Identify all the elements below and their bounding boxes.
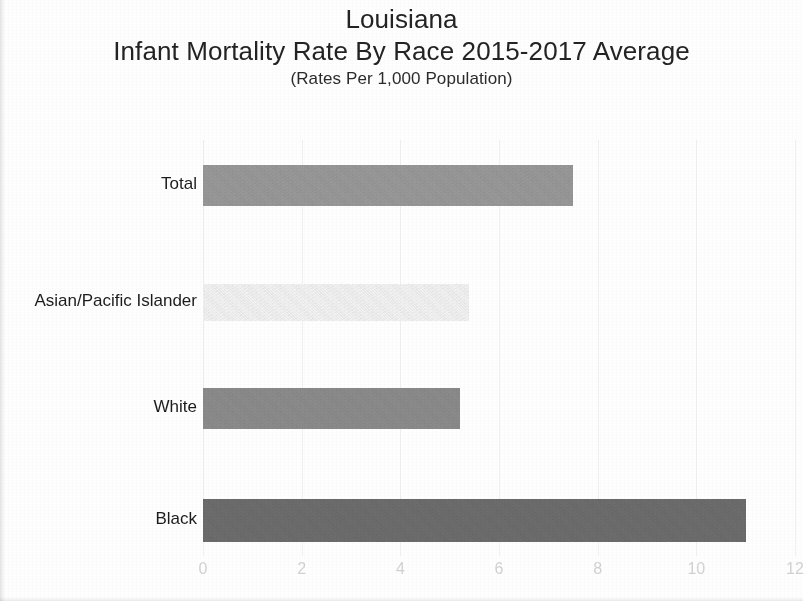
scan-edge-bottom xyxy=(0,597,803,601)
tick-mark xyxy=(400,542,401,556)
bar-texture xyxy=(203,284,469,321)
chart-title-block: Louisiana Infant Mortality Rate By Race … xyxy=(0,4,803,91)
gridline xyxy=(598,140,599,555)
x-tick-label: 2 xyxy=(297,560,306,578)
x-tick-label: 10 xyxy=(687,560,705,578)
category-label: Total xyxy=(7,174,197,194)
x-tick-label: 4 xyxy=(396,560,405,578)
tick-mark xyxy=(795,542,796,556)
x-tick-label: 6 xyxy=(495,560,504,578)
tick-mark xyxy=(302,542,303,556)
bar[interactable] xyxy=(203,284,469,321)
x-tick-label: 12 xyxy=(786,560,804,578)
bar[interactable] xyxy=(203,165,573,206)
tick-mark xyxy=(499,542,500,556)
tick-mark xyxy=(598,542,599,556)
category-label: Asian/Pacific Islander xyxy=(7,291,197,311)
plot-area: TotalAsian/Pacific IslanderWhiteBlack xyxy=(203,140,795,555)
x-tick-label: 8 xyxy=(593,560,602,578)
chart-units-note: (Rates Per 1,000 Population) xyxy=(0,67,803,91)
bar-texture xyxy=(203,388,460,429)
category-label: Black xyxy=(7,509,197,529)
tick-mark xyxy=(696,542,697,556)
bar[interactable] xyxy=(203,388,460,429)
bar-texture xyxy=(203,499,746,542)
bar[interactable] xyxy=(203,499,746,542)
bar-texture xyxy=(203,165,573,206)
x-axis: 024681012 xyxy=(203,560,795,590)
gridline xyxy=(795,140,796,555)
tick-mark xyxy=(203,542,204,556)
bar-chart: TotalAsian/Pacific IslanderWhiteBlack xyxy=(0,140,803,560)
page-title: Louisiana xyxy=(0,4,803,35)
x-tick-label: 0 xyxy=(199,560,208,578)
category-label: White xyxy=(7,397,197,417)
gridline xyxy=(696,140,697,555)
chart-subtitle: Infant Mortality Rate By Race 2015-2017 … xyxy=(0,35,803,67)
